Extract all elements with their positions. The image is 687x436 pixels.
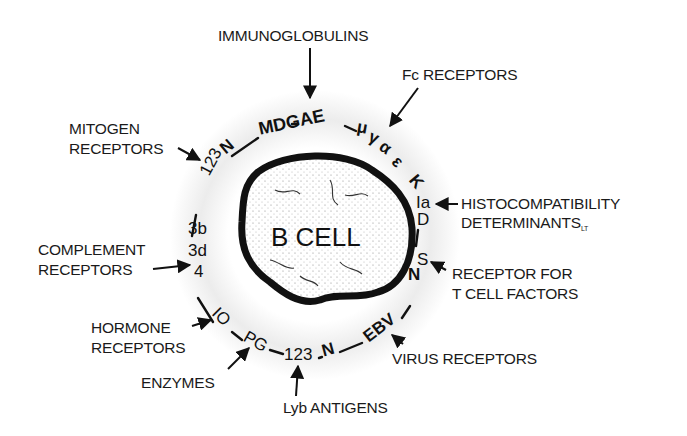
label-lyb-antigens: Lyb ANTIGENS [283, 398, 388, 417]
b-cell-label: B CELL [271, 222, 361, 253]
label-determinants: DETERMINANTS [461, 214, 581, 231]
label-hormone: HORMONE [91, 318, 171, 337]
label-histocompatibility-1: HISTOCOMPATIBILITY [461, 194, 620, 213]
marker-n-right: N [408, 265, 420, 285]
label-histocompatibility-2: DETERMINANTSLT [461, 213, 588, 238]
label-virus-receptors: VIRUS RECEPTORS [392, 349, 537, 368]
label-fc-receptors: Fc RECEPTORS [402, 65, 517, 84]
marker-c3b: 3b [188, 219, 207, 239]
label-mitogen-receptors: RECEPTORS [69, 139, 163, 158]
marker-c3d: 3d [188, 241, 207, 261]
marker-c4: 4 [194, 262, 203, 282]
label-mitogen: MITOGEN [69, 119, 140, 138]
marker-lyb-123: 123 [284, 345, 312, 365]
label-immunoglobulins: IMMUNOGLOBULINS [218, 26, 368, 45]
label-complement-receptors: RECEPTORS [38, 260, 132, 279]
label-hormone-receptors: RECEPTORS [91, 338, 185, 357]
label-receptor-for: RECEPTOR FOR [452, 264, 572, 283]
label-t-cell-factors: T CELL FACTORS [452, 284, 578, 303]
subscript-lt: LT [581, 225, 588, 232]
label-complement: COMPLEMENT [38, 240, 145, 259]
label-enzymes: ENZYMES [141, 373, 215, 392]
marker-d: D [417, 210, 429, 230]
